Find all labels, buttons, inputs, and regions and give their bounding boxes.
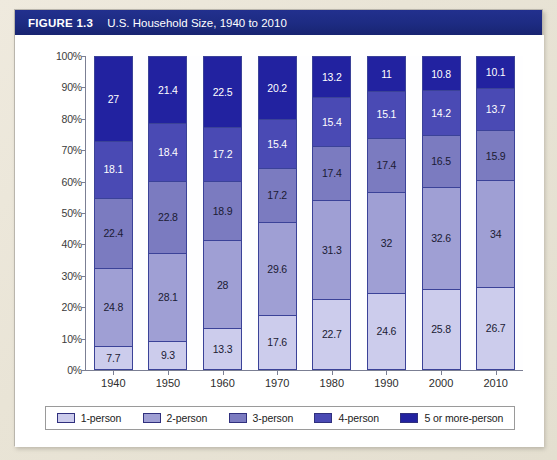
- bar-segment-value: 10.1: [486, 67, 506, 78]
- plot-area: 0%10%20%30%40%50%60%70%80%90%100% 7.724.…: [85, 56, 523, 371]
- bar-segment[interactable]: 16.5: [422, 135, 461, 187]
- bar-segment-value: 16.5: [431, 156, 451, 167]
- bar-segment[interactable]: 22.4: [94, 198, 133, 268]
- bar-segment-value: 18.9: [213, 206, 233, 217]
- bar-segment[interactable]: 22.5: [203, 56, 242, 127]
- bar-segment[interactable]: 17.4: [367, 138, 406, 193]
- figure-card: FIGURE 1.3 U.S. Household Size, 1940 to …: [14, 9, 543, 446]
- x-axis-tick-mark: [441, 370, 442, 375]
- legend-item[interactable]: 5 or more-person: [400, 412, 503, 424]
- y-axis-tick-label: 10%: [62, 333, 82, 345]
- bar-segment[interactable]: 28.1: [148, 253, 187, 341]
- bar-segment[interactable]: 13.7: [476, 88, 515, 131]
- bar-segment[interactable]: 24.6: [367, 293, 406, 370]
- bar-segment[interactable]: 11: [367, 56, 406, 91]
- bar-segment-value: 17.4: [322, 168, 342, 179]
- bar-segment[interactable]: 17.4: [312, 146, 351, 201]
- bar-column[interactable]: 9.328.122.818.421.41950: [148, 56, 187, 370]
- bar-segment[interactable]: 15.9: [476, 130, 515, 180]
- scanned-page-background: FIGURE 1.3 U.S. Household Size, 1940 to …: [0, 0, 557, 460]
- bar-column[interactable]: 24.63217.415.1111990: [367, 56, 406, 370]
- bar-segment-value: 22.7: [322, 329, 342, 340]
- legend-item[interactable]: 4-person: [314, 412, 379, 424]
- bar-segment-value: 34: [490, 229, 501, 240]
- bar-segment[interactable]: 31.3: [312, 200, 351, 298]
- bar-segment-value: 17.2: [267, 190, 287, 201]
- legend-item[interactable]: 1-person: [57, 412, 122, 424]
- bar-segment-value: 24.6: [377, 326, 397, 337]
- bar-segment-value: 21.4: [158, 85, 178, 96]
- legend-swatch: [400, 413, 418, 423]
- y-axis-tick-label: 80%: [62, 113, 82, 125]
- bar-segment-value: 11: [381, 69, 392, 80]
- bar-column[interactable]: 7.724.822.418.1271940: [94, 56, 133, 370]
- legend-label: 2-person: [167, 412, 208, 424]
- bar-segment[interactable]: 32: [367, 192, 406, 292]
- bar-segment[interactable]: 18.4: [148, 123, 187, 181]
- x-axis-tick-mark: [168, 370, 169, 375]
- bar-segment[interactable]: 15.1: [367, 91, 406, 138]
- bar-segment-value: 20.2: [267, 83, 287, 94]
- bar-segment-value: 22.8: [158, 212, 178, 223]
- bar-segment[interactable]: 22.7: [312, 299, 351, 370]
- legend-item[interactable]: 3-person: [229, 412, 294, 424]
- bar-segment[interactable]: 17.6: [258, 315, 297, 370]
- x-axis-tick-label: 1960: [210, 377, 234, 389]
- bar-segment[interactable]: 10.1: [476, 56, 515, 88]
- bar-segment-value: 13.2: [322, 72, 342, 83]
- legend-label: 4-person: [338, 412, 379, 424]
- x-axis-tick-label: 1940: [101, 377, 125, 389]
- bar-segment[interactable]: 29.6: [258, 222, 297, 315]
- legend-swatch: [143, 413, 161, 423]
- x-axis-tick-mark: [223, 370, 224, 375]
- bar-segment[interactable]: 18.1: [94, 141, 133, 198]
- bar-segment-value: 28: [217, 280, 228, 291]
- bar-segment[interactable]: 21.4: [148, 56, 187, 123]
- bar-segment[interactable]: 17.2: [203, 127, 242, 181]
- bar-segment-value: 18.1: [103, 164, 123, 175]
- bar-segment[interactable]: 13.3: [203, 328, 242, 370]
- bar-segment[interactable]: 20.2: [258, 56, 297, 119]
- bar-segment-value: 28.1: [158, 292, 178, 303]
- bar-segment-value: 24.8: [103, 302, 123, 313]
- bar-segment[interactable]: 22.8: [148, 181, 187, 253]
- legend-item[interactable]: 2-person: [143, 412, 208, 424]
- legend-label: 1-person: [81, 412, 122, 424]
- bar-segment[interactable]: 15.4: [312, 97, 351, 145]
- bar-segment[interactable]: 28: [203, 240, 242, 328]
- y-axis-tick-mark: [81, 370, 86, 371]
- figure-title-bar: FIGURE 1.3 U.S. Household Size, 1940 to …: [15, 10, 542, 35]
- bar-segment[interactable]: 17.2: [258, 168, 297, 222]
- bar-segment[interactable]: 25.8: [422, 289, 461, 370]
- bar-segment[interactable]: 26.7: [476, 287, 515, 371]
- bar-column[interactable]: 25.832.616.514.210.82000: [422, 56, 461, 370]
- bar-segment[interactable]: 32.6: [422, 187, 461, 289]
- y-axis-tick-label: 60%: [62, 176, 82, 188]
- bar-column[interactable]: 13.32818.917.222.51960: [203, 56, 242, 370]
- bar-segment-value: 17.6: [267, 337, 287, 348]
- bar-segment-value: 32: [381, 238, 392, 249]
- x-axis-tick-label: 1980: [320, 377, 344, 389]
- bar-segment[interactable]: 15.4: [258, 119, 297, 167]
- bar-column[interactable]: 17.629.617.215.420.21970: [258, 56, 297, 370]
- bar-segment[interactable]: 14.2: [422, 90, 461, 135]
- y-axis-tick-label: 0%: [67, 364, 82, 376]
- bar-segment[interactable]: 10.8: [422, 56, 461, 90]
- bar-segment[interactable]: 18.9: [203, 181, 242, 240]
- bar-segment-value: 15.1: [377, 109, 397, 120]
- bar-segment-value: 22.5: [213, 87, 233, 98]
- bar-segment[interactable]: 27: [94, 56, 133, 141]
- bar-segment[interactable]: 13.2: [312, 56, 351, 97]
- y-axis-tick-label: 40%: [62, 238, 82, 250]
- y-axis-tick-label: 20%: [62, 301, 82, 313]
- x-axis-tick-label: 1950: [156, 377, 180, 389]
- bar-column[interactable]: 26.73415.913.710.12010: [476, 56, 515, 370]
- bar-column[interactable]: 22.731.317.415.413.21980: [312, 56, 351, 370]
- bar-segment[interactable]: 34: [476, 180, 515, 286]
- bar-group: 7.724.822.418.12719409.328.122.818.421.4…: [86, 56, 523, 370]
- bar-segment[interactable]: 7.7: [94, 346, 133, 370]
- bar-segment[interactable]: 24.8: [94, 268, 133, 346]
- y-axis-tick-label: 90%: [62, 81, 82, 93]
- bar-segment-value: 27: [108, 94, 119, 105]
- bar-segment[interactable]: 9.3: [148, 341, 187, 370]
